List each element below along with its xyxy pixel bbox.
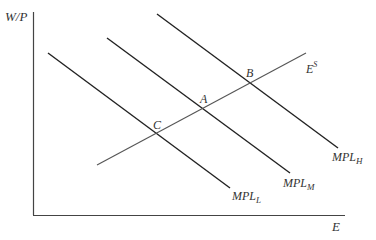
es-label-sup: S	[313, 60, 317, 69]
mpl-h-label-sub: H	[355, 156, 363, 166]
mpl-m-label-main: MPL	[282, 176, 307, 190]
point-c-label: C	[153, 118, 162, 132]
x-axis-label: E	[331, 219, 340, 234]
point-b-label: B	[246, 66, 254, 80]
mpl-h-label: MPLH	[331, 150, 363, 166]
mpl-h-curve	[157, 14, 338, 148]
labor-market-diagram: W/P E MPLL MPLM MPLH ES A B C	[0, 0, 376, 240]
y-axis-label: W/P	[5, 9, 27, 24]
axes: W/P E	[5, 9, 345, 234]
supply-curve-es	[97, 53, 306, 165]
mpl-l-label-sub: L	[255, 195, 261, 205]
mpl-h-label-main: MPL	[331, 150, 356, 164]
mpl-m-curve	[107, 38, 290, 173]
mpl-curves	[48, 14, 338, 188]
point-a-label: A	[199, 92, 208, 106]
mpl-m-label-sub: M	[306, 182, 315, 192]
es-label: ES	[305, 60, 317, 76]
mpl-l-label-main: MPL	[231, 189, 256, 203]
mpl-m-label: MPLM	[282, 176, 315, 192]
mpl-l-curve	[48, 53, 230, 188]
mpl-l-label: MPLL	[231, 189, 261, 205]
